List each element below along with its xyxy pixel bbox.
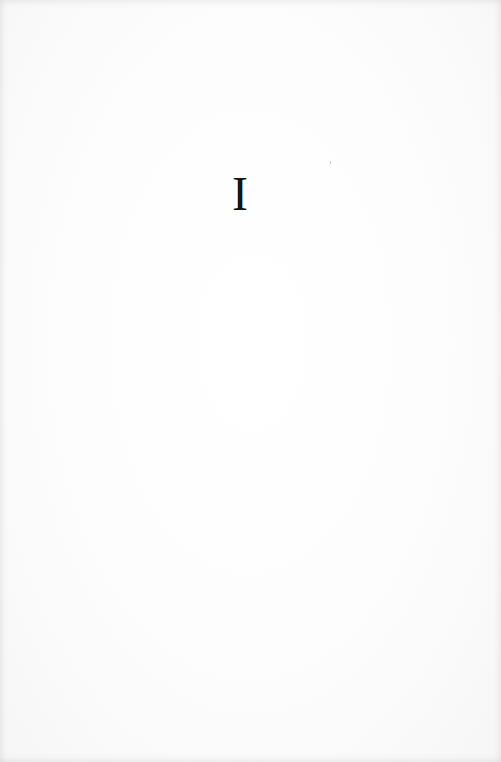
part-number-heading: I (0, 168, 480, 220)
scan-speck (330, 161, 331, 164)
book-page: I (0, 0, 501, 762)
